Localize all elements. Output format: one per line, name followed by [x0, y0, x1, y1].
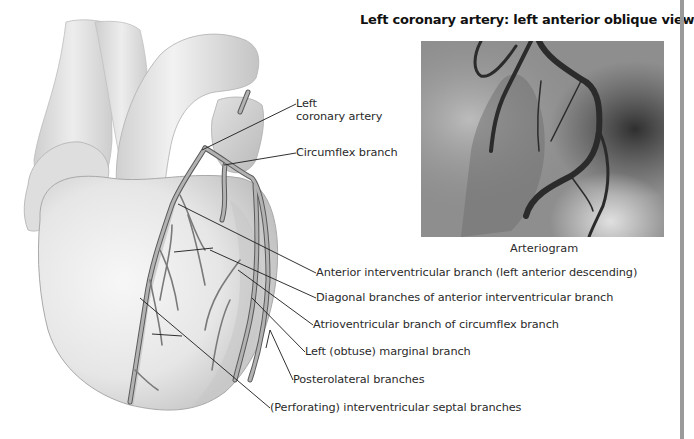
arteriogram-caption: Arteriogram	[510, 242, 578, 255]
label-circumflex-branch: Circumflex branch	[296, 146, 398, 159]
label-diagonal-branches: Diagonal branches of anterior interventr…	[316, 291, 613, 304]
left-auricle	[212, 97, 264, 173]
label-posterolateral-branches: Posterolateral branches	[293, 373, 424, 386]
label-atrioventricular-branch: Atrioventricular branch of circumflex br…	[313, 318, 559, 331]
label-anterior-interventricular-branch: Anterior interventricular branch (left a…	[316, 266, 637, 279]
label-obtuse-marginal-branch: Left (obtuse) marginal branch	[305, 345, 471, 358]
figure-title: Left coronary artery: left anterior obli…	[360, 12, 694, 27]
page-edge-bar	[680, 0, 684, 439]
label-left-coronary-artery: Left coronary artery	[296, 97, 382, 123]
arteriogram-image	[421, 41, 664, 237]
label-septal-branches: (Perforating) interventricular septal br…	[270, 401, 521, 414]
